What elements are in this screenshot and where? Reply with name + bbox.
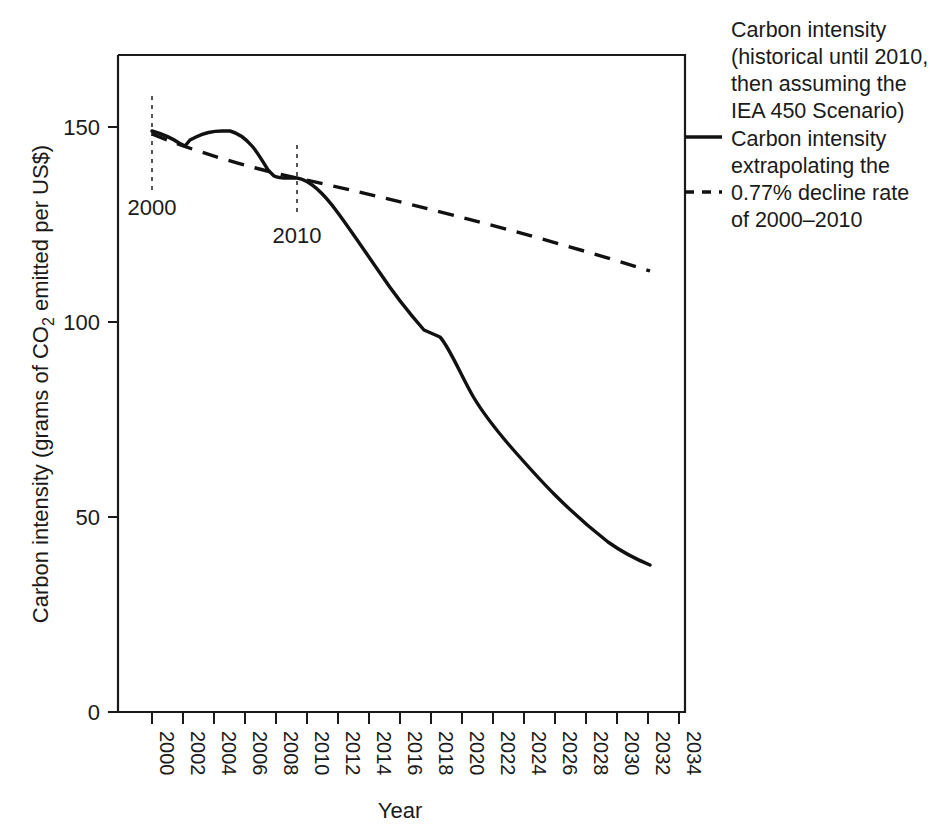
x-tick-label-2032: 2032	[652, 731, 674, 776]
y-tick-label-150: 150	[63, 115, 100, 140]
annotation-2000: 2000	[128, 195, 177, 220]
x-axis-title: Year	[378, 798, 422, 823]
chart-figure: 0 50 100 150 2000 2002	[0, 0, 939, 838]
legend-entry-dashed[interactable]: Carbon intensity extrapolating the 0.77%…	[731, 126, 939, 234]
x-tick-label-2004: 2004	[218, 731, 240, 776]
x-tick-label-2014: 2014	[373, 731, 395, 776]
y-axis-title-sub: 2	[40, 317, 57, 326]
x-tick-label-2022: 2022	[497, 731, 519, 776]
x-tick-label-2010: 2010	[311, 731, 333, 776]
x-tick-label-2016: 2016	[404, 731, 426, 776]
x-axis-ticks	[152, 712, 679, 724]
x-tick-label-2008: 2008	[280, 731, 302, 776]
y-tick-label-50: 50	[76, 505, 100, 530]
x-tick-label-2000: 2000	[156, 731, 178, 776]
x-tick-label-2002: 2002	[187, 731, 209, 776]
x-axis-tick-labels: 2000 2002 2004 2006 2008 2010 2012 2014 …	[156, 731, 705, 776]
x-tick-label-2018: 2018	[435, 731, 457, 776]
y-tick-label-100: 100	[63, 310, 100, 335]
y-axis-ticks	[108, 127, 118, 712]
legend-dashed-line-2: extrapolating the	[731, 153, 939, 180]
annotation-2010: 2010	[273, 223, 322, 248]
y-axis-title: Carbon intensity (grams of CO2 emitted p…	[28, 145, 57, 623]
x-tick-label-2024: 2024	[528, 731, 550, 776]
x-tick-label-2026: 2026	[559, 731, 581, 776]
legend-solid-line-1: Carbon intensity	[731, 17, 939, 44]
x-tick-label-2030: 2030	[621, 731, 643, 776]
legend-dashed-line-3: 0.77% decline rate	[731, 180, 939, 207]
x-tick-label-2006: 2006	[249, 731, 271, 776]
legend-dashed-line-1: Carbon intensity	[731, 126, 939, 153]
legend-entry-solid[interactable]: Carbon intensity (historical until 2010,…	[731, 17, 939, 125]
x-tick-label-2034: 2034	[683, 731, 705, 776]
y-tick-label-0: 0	[88, 700, 100, 725]
x-tick-label-2028: 2028	[590, 731, 612, 776]
legend-solid-line-2: (historical until 2010,	[731, 44, 939, 71]
series-extrapolated-line	[152, 134, 650, 271]
x-tick-label-2020: 2020	[466, 731, 488, 776]
series-carbon-intensity-line	[152, 131, 650, 565]
x-tick-label-2012: 2012	[342, 731, 364, 776]
y-axis-title-after: emitted per US$)	[28, 145, 53, 317]
legend-dashed-line-4: of 2000–2010	[731, 207, 939, 234]
y-axis-title-before: Carbon intensity (grams of CO	[28, 326, 53, 623]
legend-solid-line-4: IEA 450 Scenario)	[731, 98, 939, 125]
legend-solid-line-3: then assuming the	[731, 71, 939, 98]
